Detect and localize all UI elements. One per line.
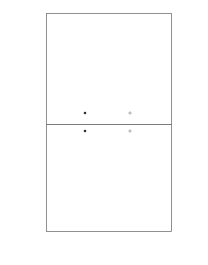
top-legend: [0, 0, 131, 114]
legend-fvfm-marker-icon: [84, 112, 87, 115]
top-panel: [0, 0, 172, 125]
top-plot-frame: [47, 14, 172, 125]
legend-f0-marker-icon: [84, 130, 87, 133]
bottom-panel: [0, 0, 172, 232]
legend-npq-marker-icon: [129, 130, 131, 132]
chart-figure: [0, 0, 208, 265]
legend-phipsii-marker-icon: [129, 112, 131, 114]
bottom-plot-frame: [47, 125, 172, 232]
bottom-legend: [0, 0, 131, 132]
